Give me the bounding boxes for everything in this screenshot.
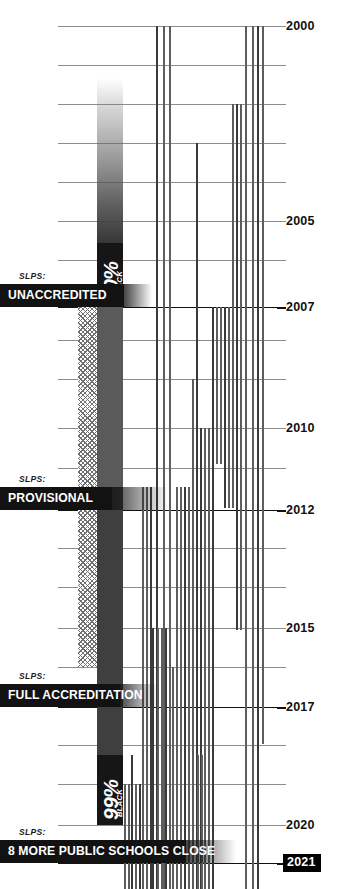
school-bar — [208, 428, 210, 889]
year-label-2020: 2020 — [286, 819, 315, 832]
school-bar — [212, 307, 214, 889]
status-label: FULL ACCREDITATION — [0, 684, 143, 707]
school-bar — [176, 487, 178, 889]
year-label-2021: 2021 — [283, 854, 321, 872]
year-label-2012: 2012 — [286, 504, 315, 517]
status-band-2021: 8 MORE PUBLIC SCHOOLS CLOSE — [0, 840, 236, 863]
school-bar — [204, 428, 206, 889]
year-label-2015: 2015 — [286, 622, 315, 635]
year-label-2007: 2007 — [286, 301, 315, 314]
school-bar — [180, 487, 182, 889]
year-label-2017: 2017 — [286, 701, 315, 714]
school-bar — [188, 487, 190, 889]
school-bar — [240, 104, 242, 630]
demographic-segment-0 — [97, 78, 123, 243]
tick-2007 — [277, 307, 286, 309]
tick-2019 — [277, 784, 286, 785]
tick-2001 — [277, 65, 286, 66]
tick-2014 — [277, 587, 286, 588]
year-label-2010: 2010 — [286, 422, 315, 435]
school-bar — [169, 26, 171, 889]
school-bar — [197, 755, 199, 889]
demographic-segment-1 — [97, 307, 123, 487]
status-label: UNACCREDITED — [0, 284, 107, 307]
school-bar — [220, 307, 222, 464]
status-band-2012: PROVISIONAL — [0, 487, 168, 510]
status-org-label: SLPS: — [19, 272, 46, 281]
demographic-marker-99: 99%BLACK — [97, 755, 123, 825]
school-bar — [245, 26, 247, 889]
school-bar — [232, 104, 234, 508]
tick-2008 — [277, 340, 286, 341]
school-bar — [131, 755, 133, 889]
year-label-2005: 2005 — [286, 215, 315, 228]
status-band-2007: UNACCREDITED — [0, 284, 152, 307]
tick-2006 — [277, 260, 286, 261]
tick-2004 — [277, 182, 286, 183]
school-bar — [228, 307, 230, 508]
school-bar — [252, 26, 254, 889]
tick-2016 — [277, 667, 286, 668]
school-bar — [216, 307, 218, 464]
school-bar — [184, 487, 186, 889]
tick-2000 — [277, 26, 286, 27]
school-bar — [124, 784, 126, 889]
tick-2020 — [277, 825, 286, 826]
school-bar — [192, 379, 194, 889]
status-org-label: SLPS: — [19, 828, 46, 837]
school-bar — [257, 26, 259, 889]
school-bar — [236, 104, 238, 630]
status-org-label: SLPS: — [19, 475, 46, 484]
status-org-label: SLPS: — [19, 672, 46, 681]
tick-2009 — [277, 379, 286, 380]
school-bar — [201, 755, 203, 889]
status-label: 8 MORE PUBLIC SCHOOLS CLOSE — [0, 840, 215, 863]
school-bar — [224, 307, 226, 508]
school-bar — [262, 26, 264, 744]
school-bar — [128, 784, 130, 889]
status-label: PROVISIONAL — [0, 487, 93, 510]
tick-2005 — [277, 221, 286, 222]
school-bar — [135, 784, 137, 889]
demographic-unit: BLACK — [115, 789, 123, 817]
tick-2002 — [277, 104, 286, 105]
tick-2011 — [277, 468, 286, 469]
tick-2003 — [277, 143, 286, 144]
tick-2017 — [277, 707, 286, 709]
tick-2013 — [277, 548, 286, 549]
tick-2015 — [277, 628, 286, 629]
school-bar — [139, 784, 141, 889]
tick-2012 — [277, 510, 286, 512]
status-band-2017: FULL ACCREDITATION — [0, 684, 158, 707]
tick-2010 — [277, 428, 286, 429]
tick-2018 — [277, 745, 286, 746]
timeline-chart: 200020052007201020122015201720202021 90%… — [0, 0, 338, 889]
year-label-2000: 2000 — [286, 20, 315, 33]
demographic-segment-2 — [97, 487, 123, 755]
